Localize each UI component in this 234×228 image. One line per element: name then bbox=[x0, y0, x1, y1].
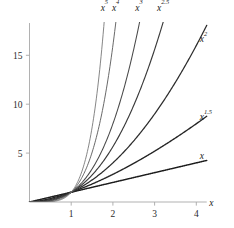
curve-label-x-5: x5 bbox=[100, 0, 108, 13]
x-tick-label: 3 bbox=[152, 209, 157, 219]
curve-x-1-5 bbox=[30, 116, 207, 202]
curve-label-x-2: x2 bbox=[199, 29, 208, 44]
x-tick-label: 2 bbox=[111, 209, 116, 219]
x-tick-label: 4 bbox=[194, 209, 199, 219]
curve-x-2-5 bbox=[30, 11, 167, 202]
curves-group bbox=[30, 10, 207, 202]
curve-x-2 bbox=[30, 25, 207, 202]
power-functions-chart: 123451015xxx1.5x2x2.5x3x4x5 bbox=[0, 0, 234, 228]
axes-group bbox=[30, 23, 207, 202]
y-tick-label: 15 bbox=[13, 51, 23, 61]
curve-x-3 bbox=[30, 10, 142, 202]
y-tick-label: 5 bbox=[18, 149, 23, 159]
curve-label-x-3: x3 bbox=[134, 0, 142, 13]
x-tick-group: 1234 bbox=[69, 202, 199, 219]
curve-x bbox=[30, 160, 207, 202]
x-axis-name: x bbox=[208, 198, 214, 208]
curve-labels-group: xx1.5x2x2.5x3x4x5 bbox=[100, 0, 212, 161]
plot-area: 123451015xxx1.5x2x2.5x3x4x5 bbox=[0, 0, 234, 228]
y-tick-group: 51015 bbox=[13, 51, 30, 159]
curve-x-4 bbox=[30, 15, 117, 202]
x-tick-label: 1 bbox=[69, 209, 74, 219]
y-tick-label: 10 bbox=[13, 100, 23, 110]
curve-label-x-1-5: x1.5 bbox=[199, 108, 212, 123]
curve-label-x-2-5: x2.5 bbox=[156, 0, 169, 13]
curve-label-x: x bbox=[199, 151, 205, 161]
curve-label-x-4: x4 bbox=[111, 0, 120, 13]
